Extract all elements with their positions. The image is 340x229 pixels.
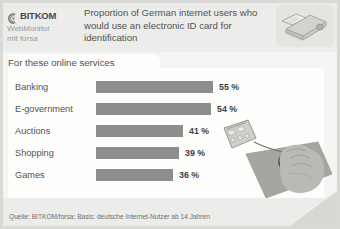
infographic-container: BITKOM WebMonitor mit forsa Proportion o… (0, 0, 340, 229)
bar-value-games: 36 % (179, 168, 199, 182)
bar-value-shopping: 39 % (185, 146, 205, 160)
logo-subline-forsa: mit forsa (7, 34, 77, 44)
bitkom-logo: BITKOM WebMonitor mit forsa (7, 9, 77, 44)
page-title: Proportion of German internet users who … (84, 7, 264, 45)
bar-label-e-government: E-government (15, 102, 73, 116)
bar-value-auctions: 41 % (189, 124, 209, 138)
bitkom-swirl-icon (7, 10, 18, 21)
bar-label-auctions: Auctions (15, 124, 50, 138)
source-note: Quelle: BITKOM/forsa; Basis: deutsche In… (9, 213, 210, 220)
bar-banking (96, 81, 213, 93)
logo-subline-webmonitor: WebMonitor (7, 23, 77, 34)
bar-label-shopping: Shopping (15, 146, 54, 160)
bar-value-banking: 55 % (219, 80, 239, 94)
bar-label-banking: Banking (15, 80, 48, 94)
bitkom-wordmark: BITKOM (20, 10, 56, 21)
card-reader-icon (276, 5, 334, 47)
corner-wedge-decoration (280, 189, 340, 229)
table-row: Banking 55 % (8, 80, 324, 94)
bar-label-games: Games (15, 168, 45, 182)
hand-on-mouse-with-card-reader-photo (222, 108, 332, 198)
bar-e-government (96, 103, 211, 115)
subtitle-label: For these online services (8, 57, 115, 68)
bar-shopping (96, 147, 179, 159)
bar-games (96, 169, 173, 181)
bar-auctions (96, 125, 183, 137)
